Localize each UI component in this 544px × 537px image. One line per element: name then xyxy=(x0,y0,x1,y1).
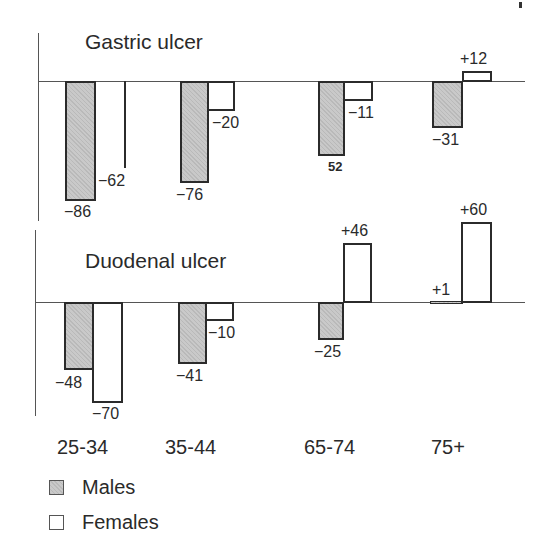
category-label: 35-44 xyxy=(165,436,216,459)
value-label: −10 xyxy=(208,324,235,342)
bar-female-25-34 xyxy=(92,302,123,403)
value-label: −20 xyxy=(212,114,239,132)
category-label: 25-34 xyxy=(57,436,108,459)
value-label: −11 xyxy=(348,104,374,122)
bar-male-35-44 xyxy=(180,81,209,183)
value-label-clipped: 52 xyxy=(328,159,342,174)
bar-female-65-74 xyxy=(343,81,373,101)
value-label: +1 xyxy=(432,281,450,299)
value-label: −25 xyxy=(314,343,341,361)
y-axis xyxy=(38,33,39,221)
bar-male-75plus xyxy=(430,301,463,304)
legend-label-females: Females xyxy=(82,511,159,534)
value-label: +60 xyxy=(460,201,487,219)
value-label: −76 xyxy=(176,186,203,204)
bar-male-25-34 xyxy=(64,302,94,370)
bar-male-75plus xyxy=(432,81,463,128)
bar-female-65-74 xyxy=(343,243,372,303)
males-swatch-icon xyxy=(49,480,64,495)
value-label: −70 xyxy=(92,405,119,423)
bar-male-65-74 xyxy=(318,81,345,156)
bar-male-35-44 xyxy=(178,302,207,364)
value-label: −86 xyxy=(64,203,91,221)
bar-female-35-44 xyxy=(205,302,234,321)
bar-male-25-34 xyxy=(65,81,96,201)
value-label: −48 xyxy=(55,374,82,392)
value-label: −31 xyxy=(432,131,459,149)
bar-female-75plus xyxy=(462,71,492,82)
bar-female-35-44 xyxy=(207,81,235,111)
y-axis xyxy=(35,230,36,416)
bar-female-25-34 xyxy=(124,81,126,168)
value-label: −41 xyxy=(176,367,203,385)
value-label: +12 xyxy=(460,50,487,68)
value-label: −62 xyxy=(98,172,125,190)
value-label: +46 xyxy=(341,222,368,240)
category-label: 75+ xyxy=(431,436,465,459)
bar-female-75plus xyxy=(461,222,492,303)
corner-mark xyxy=(519,2,522,8)
bar-male-65-74 xyxy=(318,302,344,340)
legend-label-males: Males xyxy=(82,476,135,499)
females-swatch-icon xyxy=(49,515,64,530)
panel-title: Gastric ulcer xyxy=(85,30,203,54)
panel-title: Duodenal ulcer xyxy=(85,249,226,273)
category-label: 65-74 xyxy=(304,436,355,459)
